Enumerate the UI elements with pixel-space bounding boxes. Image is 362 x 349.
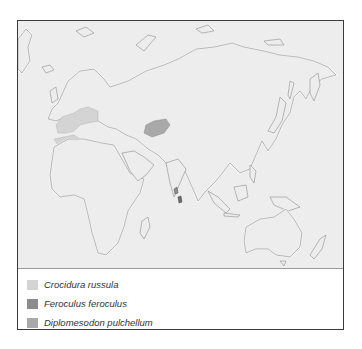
severnaya-landmass <box>196 25 214 33</box>
range-feroculus-feroculus-srilanka <box>178 196 182 203</box>
legend-item: Diplomesodon pulchellum <box>18 313 343 332</box>
svalbard-landmass <box>76 27 94 37</box>
map-svg <box>18 21 343 268</box>
philippines-landmass <box>250 165 256 183</box>
java-landmass <box>224 213 240 217</box>
map-figure: Crocidura russula Feroculus feroculus Di… <box>17 20 344 330</box>
distribution-map <box>18 21 343 269</box>
sumatra-landmass <box>208 191 230 213</box>
map-legend: Crocidura russula Feroculus feroculus Di… <box>18 269 343 332</box>
legend-label: Diplomesodon pulchellum <box>44 317 153 328</box>
britain-landmass <box>50 87 58 103</box>
new-zealand-landmass <box>310 235 326 259</box>
australia-landmass <box>244 209 302 257</box>
legend-label: Feroculus feroculus <box>44 298 127 309</box>
legend-item: Feroculus feroculus <box>18 294 343 313</box>
novaya-zemlya-landmass <box>136 35 156 51</box>
legend-item: Crocidura russula <box>18 275 343 294</box>
legend-swatch-crocidura-russula <box>27 280 38 290</box>
iceland-landmass <box>42 65 54 73</box>
madagascar-landmass <box>140 217 150 239</box>
tasmania-landmass <box>280 261 286 266</box>
legend-swatch-feroculus-feroculus <box>27 299 38 309</box>
legend-label: Crocidura russula <box>44 279 118 290</box>
borneo-landmass <box>234 185 248 201</box>
new-siberian-landmass <box>264 39 284 45</box>
legend-swatch-diplomesodon-pulchellum <box>27 318 38 328</box>
